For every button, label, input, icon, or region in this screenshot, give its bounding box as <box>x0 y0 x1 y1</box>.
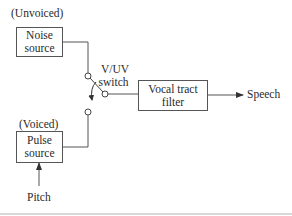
noise-to-switch-wire <box>62 42 88 73</box>
pulse-source-label-line1: Pulse <box>27 134 52 147</box>
filter-label-line1: Vocal tract <box>148 83 197 96</box>
switch-label: V/UV switch <box>98 63 129 89</box>
vocal-tract-filter-block: Vocal tract filter <box>138 80 208 111</box>
noise-source-label-line1: Noise <box>26 29 53 42</box>
switch-label-line1: V/UV <box>98 63 129 76</box>
switch-label-line2: switch <box>98 76 129 89</box>
speech-output-label: Speech <box>247 88 280 101</box>
noise-source-label-line2: source <box>24 42 54 55</box>
bottom-divider <box>0 213 292 215</box>
voiced-annotation: (Voiced) <box>19 118 58 131</box>
switch-toggle-arrow <box>92 82 97 100</box>
switch-terminal-voiced <box>85 109 91 115</box>
filter-label-line2: filter <box>162 96 184 109</box>
pulse-source-block: Pulse source <box>16 131 63 163</box>
pitch-input-label: Pitch <box>27 191 51 204</box>
pulse-source-label-line2: source <box>24 147 54 160</box>
pulse-to-switch-wire <box>62 115 88 147</box>
unvoiced-annotation: (Unvoiced) <box>11 7 63 20</box>
noise-source-block: Noise source <box>16 27 63 57</box>
